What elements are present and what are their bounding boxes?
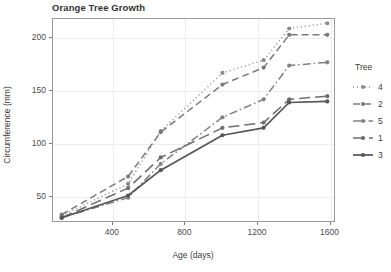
x-tick-mark [184,222,185,225]
data-point-2 [287,33,291,37]
x-tick-label: 1600 [320,227,339,237]
y-tick-mark [49,37,52,38]
y-tick-mark [49,196,52,197]
legend: Tree 42513 [352,62,391,163]
x-tick-label: 400 [105,227,119,237]
data-point-2 [220,82,224,86]
legend-item-4[interactable]: 4 [352,78,391,95]
legend-label-1: 1 [378,133,383,143]
series-line-5 [62,62,328,217]
series-line-1 [62,96,328,218]
chart-title: Orange Tree Growth [52,2,145,13]
data-point-2 [325,33,329,37]
data-point-5 [159,162,163,166]
data-point-1 [325,94,329,98]
x-tick-mark [112,222,113,225]
y-tick-label: 200 [20,32,46,42]
data-point-3 [126,193,130,197]
legend-item-1[interactable]: 1 [352,129,391,146]
plot-panel [52,18,335,222]
data-point-3 [159,168,163,172]
data-point-1 [159,155,163,159]
y-axis-title: Circumference (mm) [2,86,12,163]
y-tick-label: 150 [20,85,46,95]
x-tick-label: 1200 [248,227,267,237]
legend-key-3 [352,148,374,162]
data-point-5 [325,60,329,64]
data-point-3 [262,126,266,130]
legend-item-5[interactable]: 5 [352,112,391,129]
data-point-4 [325,21,329,25]
series-line-4 [62,23,328,215]
data-point-5 [262,97,266,101]
data-point-5 [287,63,291,67]
data-point-3 [60,216,64,220]
data-series-layer [53,19,336,223]
series-line-2 [62,35,328,215]
legend-label-3: 3 [378,150,383,160]
y-tick-label: 100 [20,138,46,148]
x-tick-label: 800 [177,227,191,237]
data-point-4 [262,58,266,62]
series-line-3 [62,101,328,217]
y-tick-mark [49,90,52,91]
data-point-3 [287,100,291,104]
legend-label-4: 4 [378,82,383,92]
data-point-4 [220,71,224,75]
legend-key-4 [352,80,374,94]
x-tick-mark [257,222,258,225]
data-point-1 [220,126,224,130]
legend-label-2: 2 [378,99,383,109]
y-tick-mark [49,143,52,144]
data-point-2 [262,66,266,70]
y-tick-label: 50 [20,191,46,201]
legend-items: 42513 [352,78,391,163]
data-point-4 [126,182,130,186]
chart-container: Orange Tree Growth 400800120016005010015… [0,0,391,272]
data-point-1 [126,186,130,190]
legend-label-5: 5 [378,116,383,126]
x-tick-mark [330,222,331,225]
legend-title: Tree [355,62,391,72]
data-point-4 [287,26,291,30]
data-point-1 [262,120,266,124]
legend-key-2 [352,97,374,111]
data-point-2 [126,174,130,178]
data-point-5 [220,115,224,119]
legend-item-3[interactable]: 3 [352,146,391,163]
x-axis-title: Age (days) [172,250,213,260]
legend-item-2[interactable]: 2 [352,95,391,112]
legend-key-5 [352,114,374,128]
legend-key-1 [352,131,374,145]
data-point-2 [159,130,163,134]
data-point-3 [220,133,224,137]
data-point-3 [325,99,329,103]
